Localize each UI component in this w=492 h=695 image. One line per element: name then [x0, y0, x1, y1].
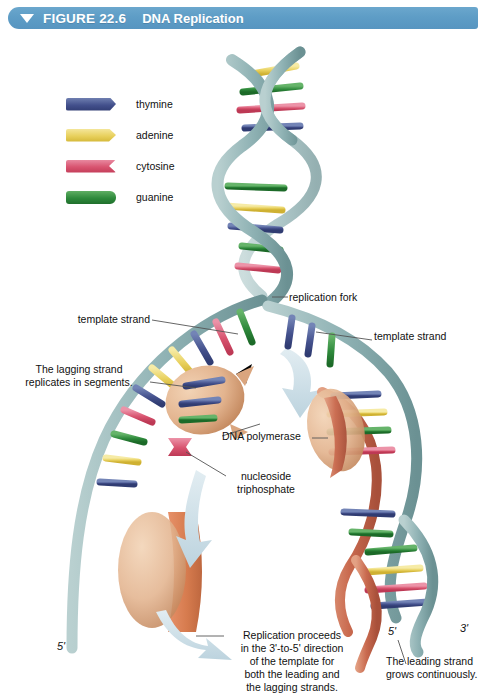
annotation-template-strand-right: template strand: [374, 330, 486, 343]
annotation-dna-polymerase: DNA polymerase: [222, 430, 301, 443]
label-3-prime-leading: 3': [460, 622, 468, 634]
annotation-nucleoside-triphosphate: nucleoside triphosphate: [222, 470, 310, 496]
figure-container: FIGURE 22.6 DNA Replication: [0, 0, 492, 695]
lagging-note-line-2: replicates in segments.: [8, 376, 150, 389]
parent-double-helix: [218, 52, 317, 304]
replication-note-line-5: the lagging strands.: [224, 681, 360, 694]
leading-note-line-2: grows continuously.: [386, 668, 492, 681]
cytosine-swatch-icon: [66, 160, 116, 173]
replication-note-line-3: of the template for: [224, 655, 360, 668]
lagging-note-line-1: The lagging strand: [8, 363, 150, 376]
nucleoside-line-1: nucleoside: [222, 470, 310, 483]
legend-label-guanine: guanine: [136, 191, 173, 203]
leader-nucleoside: [186, 452, 226, 476]
legend-label-thymine: thymine: [136, 98, 173, 110]
legend-label-cytosine: cytosine: [136, 160, 175, 172]
legend-item-thymine: thymine: [66, 92, 175, 116]
thymine-swatch-icon: [66, 98, 116, 111]
leading-note-line-1: The leading strand: [386, 655, 492, 668]
label-5-prime-leading: 5': [388, 625, 396, 637]
legend-label-adenine: adenine: [136, 129, 173, 141]
replication-note-line-2: in the 3'-to-5' direction: [224, 642, 360, 655]
annotation-leading-strand-note: The leading strand grows continuously.: [386, 655, 492, 681]
nucleotide-legend: thymine adenine cytosine guanine: [66, 92, 175, 216]
guanine-swatch-icon: [66, 191, 116, 204]
legend-item-guanine: guanine: [66, 185, 175, 209]
replication-note-line-4: both the leading and: [224, 668, 360, 681]
replication-note-line-1: Replication proceeds: [224, 629, 360, 642]
legend-item-adenine: adenine: [66, 123, 175, 147]
nucleoside-line-2: triphosphate: [222, 483, 310, 496]
dna-polymerase-lagging-2: [118, 512, 186, 628]
label-5-prime-lagging: 5': [57, 640, 65, 652]
annotation-lagging-strand-note: The lagging strand replicates in segment…: [8, 363, 150, 389]
annotation-replication-note: Replication proceeds in the 3'-to-5' dir…: [224, 629, 360, 694]
legend-item-cytosine: cytosine: [66, 154, 175, 178]
annotation-replication-fork: replication fork: [289, 291, 357, 304]
adenine-swatch-icon: [66, 129, 116, 142]
annotation-template-strand-left: template strand: [58, 313, 150, 326]
